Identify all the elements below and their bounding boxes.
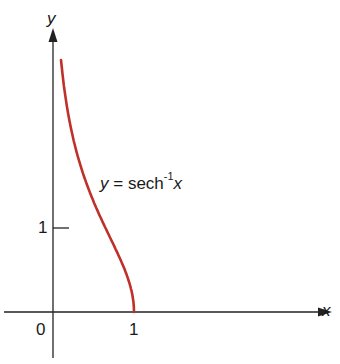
chart: y x 0 1 1 y = sech-1x [0, 0, 340, 364]
y-axis-label: y [47, 10, 56, 27]
x-tick-label-1: 1 [129, 321, 138, 338]
x-tick-label-0: 0 [36, 321, 45, 338]
x-axis-label: x [322, 302, 331, 319]
y-tick-label-1: 1 [38, 219, 47, 236]
annotation-lhs: y [100, 174, 109, 193]
annotation-eq: = [113, 174, 123, 193]
annotation-func: sech [128, 174, 164, 193]
annotation-exp: -1 [164, 170, 174, 182]
y-axis-arrow-icon [49, 28, 58, 42]
curve-annotation: y = sech-1x [100, 173, 182, 192]
annotation-arg: x [174, 174, 183, 193]
